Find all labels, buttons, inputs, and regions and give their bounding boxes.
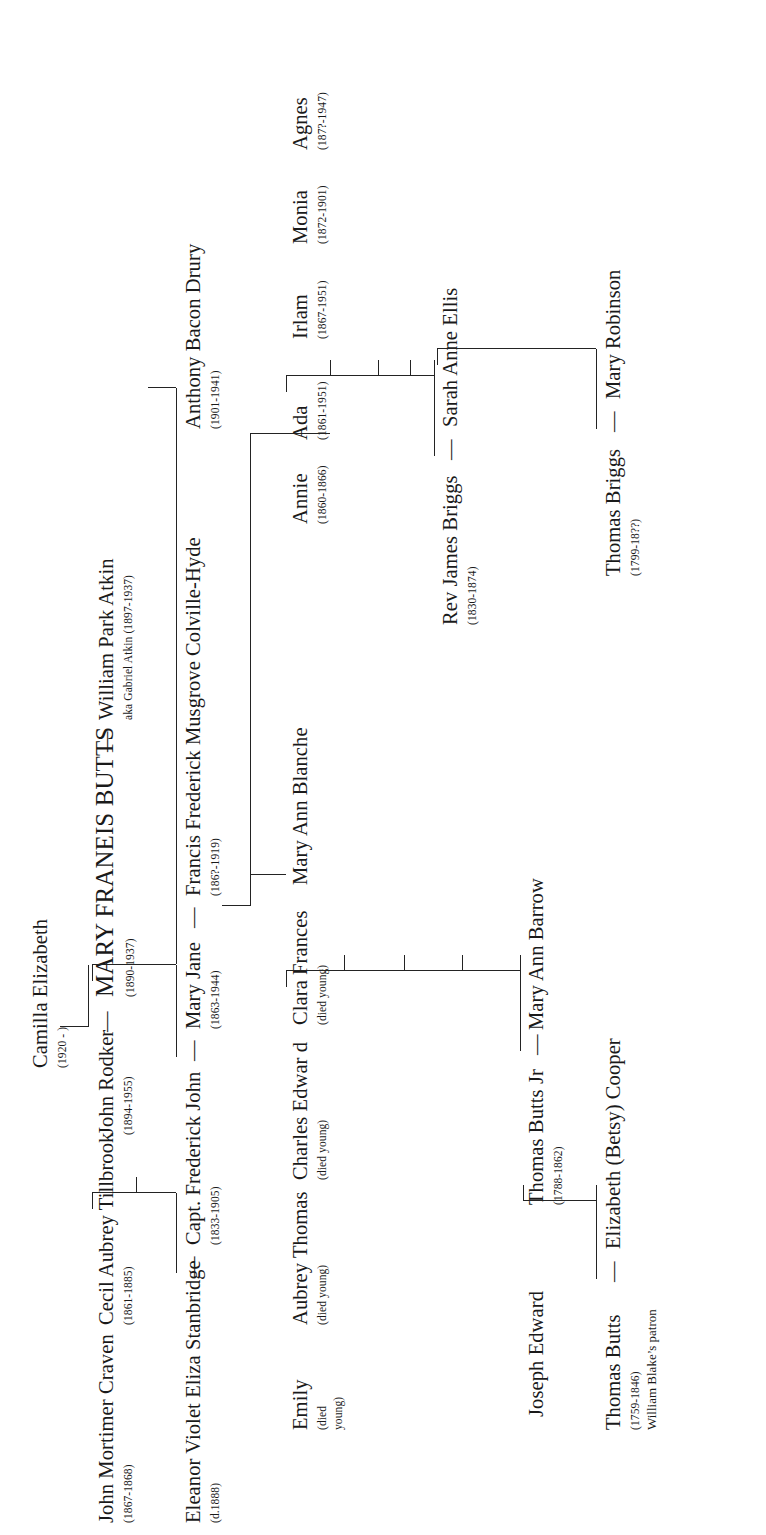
- person-john-mortimer-craven: John Mortimer Craven (1867-1868): [96, 1334, 134, 1523]
- connector-butts-child-thomasjr-stub: [596, 1185, 597, 1201]
- person-dates: (died young): [316, 910, 328, 1025]
- connector-child-irlam-stub: [378, 360, 379, 376]
- person-name: John Mortimer Craven: [96, 1334, 118, 1523]
- connector-child-emily-stub: [286, 971, 287, 987]
- person-dates: (187?-1947): [316, 92, 328, 150]
- marriage-dash-briggs-robinson: —: [603, 411, 625, 432]
- connector-frederick-children-spine: [92, 964, 176, 965]
- person-ada: Ada (1861-1951): [290, 381, 328, 440]
- connector-child-blanche-stub: [520, 955, 521, 971]
- person-dates: (1867-1951): [316, 280, 328, 339]
- person-dates: (1901-1941): [209, 244, 221, 429]
- connector-butts-cooper-marriage-drop: [596, 1201, 597, 1279]
- person-name: Annie: [290, 465, 312, 524]
- connector-stanbridge-marriage-drop: [176, 1193, 177, 1273]
- person-eleanor-stanbridge: Eleanor Violet Eliza Stanbridge (d.1888): [183, 1260, 221, 1523]
- connector-child-maryfraneis-stub: [92, 965, 93, 981]
- person-dates: (1830-1874): [466, 475, 478, 625]
- person-dates: (1759-1846): [629, 1309, 641, 1430]
- marriage-dash-butts-cooper: —: [603, 1261, 625, 1282]
- connector-ada-to-maryjane-h: [250, 434, 251, 906]
- person-dates: (1920 - ): [56, 919, 68, 1068]
- family-tree-canvas-rotation: Thomas Butts (1759-1846) William Blake’s…: [0, 0, 766, 1535]
- person-dates: (died young): [316, 1191, 328, 1325]
- marriage-dash-maryjane-colvillehyde: —: [183, 907, 205, 928]
- person-name: MARY FRANEIS BUTTS: [92, 727, 118, 997]
- person-dates: (1861-1885): [122, 1133, 134, 1325]
- connector-child-annie-stub: [286, 376, 287, 392]
- person-name: Emily: [290, 1379, 312, 1430]
- person-thomas-briggs: Thomas Briggs (1799-18??): [603, 449, 641, 576]
- connector-child-monia-stub: [410, 360, 411, 376]
- person-name: John Rodker: [96, 1030, 118, 1135]
- person-name: Agnes: [290, 92, 312, 150]
- person-anthony-bacon-drury: Anthony Bacon Drury (1901-1941): [183, 244, 221, 429]
- person-mary-franeis-butts: MARY FRANEIS BUTTS (1890-1937): [92, 727, 136, 997]
- person-charles-edward: Charles Edwar d (died young): [290, 1042, 328, 1180]
- family-tree-diagram: Thomas Butts (1759-1846) William Blake’s…: [0, 0, 766, 1535]
- person-dates: (1788-1862): [552, 1069, 564, 1205]
- connector-buttsjr-children-spine: [286, 970, 520, 971]
- person-name: Thomas Briggs: [603, 449, 625, 576]
- person-mary-robinson: Mary Robinson: [603, 270, 625, 399]
- connector-butts-children-spine: [523, 1200, 597, 1201]
- connector-maryjane-link-v: [222, 905, 250, 906]
- person-cecil-aubrey-tillbrook: Cecil Aubrey Tillbrook (1861-1885): [96, 1133, 134, 1325]
- person-thomas-butts-jr: Thomas Butts Jr (1788-1862): [526, 1069, 564, 1205]
- person-irlam: Irlam (1867-1951): [290, 280, 328, 339]
- connector-camilla-v: [60, 1026, 88, 1027]
- person-capt-frederick-john: Capt. Frederick John (1833-1905): [183, 1072, 221, 1245]
- person-dates-2: young): [332, 1379, 344, 1430]
- connector-butts-child-joseph-stub: [523, 1185, 524, 1201]
- person-dates: (1863-1944): [209, 942, 221, 1029]
- connector-child-ada-stub: [330, 360, 331, 376]
- person-dates: (1890-1937): [124, 727, 136, 997]
- person-emily: Emily (died young): [290, 1379, 344, 1430]
- person-dates: (1894-1955): [122, 1030, 134, 1135]
- person-mary-ann-blanche: Mary Ann Blanche: [290, 727, 312, 885]
- marriage-dash-briggs-ellis: —: [440, 439, 462, 460]
- connector-child-aubrey-stub: [344, 955, 345, 971]
- connector-revjames-ellis-marriage-drop: [434, 376, 435, 456]
- person-sarah-anne-ellis: Sarah Anne Ellis: [440, 288, 462, 427]
- person-john-rodker: John Rodker (1894-1955): [96, 1030, 134, 1135]
- connector-briggs-robinson-marriage-drop: [596, 349, 597, 429]
- connector-child-revjames-stub: [437, 349, 438, 365]
- person-name: Rev James Briggs: [440, 475, 462, 625]
- connector-child-charles-stub: [404, 955, 405, 971]
- person-aubrey-thomas: Aubrey Thomas (died young): [290, 1191, 328, 1325]
- person-aka: aka Gabriel Atkin (1897-1937): [122, 558, 134, 720]
- marriage-dash-rodker-butts: —: [96, 1011, 118, 1032]
- person-dates: (1799-18??): [629, 449, 641, 576]
- connector-child-craven-stub: [92, 1193, 93, 1209]
- person-dates: (d.1888): [209, 1260, 221, 1523]
- person-agnes: Agnes (187?-1947): [290, 92, 328, 150]
- person-elizabeth-cooper: Elizabeth (Betsy) Cooper: [603, 1038, 625, 1249]
- marriage-dash-frederick-maryjane: —: [183, 1040, 205, 1061]
- person-dates: (died: [316, 1379, 328, 1430]
- connector-child-tillbrook-stub: [136, 1177, 137, 1193]
- person-thomas-butts: Thomas Butts (1759-1846) William Blake’s…: [603, 1309, 658, 1430]
- person-rev-james-briggs: Rev James Briggs (1830-1874): [440, 475, 478, 625]
- person-dates: (1860-1866): [316, 465, 328, 524]
- person-clara-frances: Clara Frances (died young): [290, 910, 328, 1025]
- person-dates: (186?-1919): [209, 537, 221, 896]
- person-name: Joseph Edward: [526, 1291, 548, 1417]
- person-name: Eleanor Violet Eliza Stanbridge: [183, 1260, 205, 1523]
- person-note: William Blake’s patron: [645, 1309, 659, 1430]
- person-name: Elizabeth (Betsy) Cooper: [603, 1038, 625, 1249]
- person-dates: (1867-1868): [122, 1334, 134, 1523]
- marriage-dash-butts-atkin: —: [96, 731, 118, 752]
- person-name: Ada: [290, 381, 312, 440]
- connector-buttsjr-barrow-marriage-drop: [520, 971, 521, 1051]
- person-name: Monia: [290, 185, 312, 244]
- person-mary-ann-barrow: Mary Ann Barrow: [526, 878, 548, 1030]
- connector-drury-h: [176, 388, 177, 964]
- connector-briggs-children-spine: [286, 375, 434, 376]
- person-name: Mary Jane: [183, 942, 205, 1029]
- person-name: Mary Ann Barrow: [526, 878, 548, 1030]
- person-name: Cecil Aubrey Tillbrook: [96, 1133, 118, 1325]
- person-mary-jane: Mary Jane (1863-1944): [183, 942, 221, 1029]
- person-name: Charles Edwar d: [290, 1042, 312, 1180]
- person-dates: (died young): [316, 1042, 328, 1180]
